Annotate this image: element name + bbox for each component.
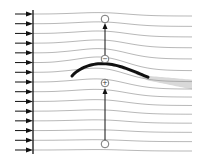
plus-sign-icon: + (102, 79, 108, 87)
inflow-arrowhead (26, 70, 33, 75)
streamline (33, 110, 192, 114)
streamline (33, 130, 192, 133)
lower-target-circle (101, 140, 109, 148)
inflow-arrowhead (26, 109, 33, 114)
inflow-arrowhead (26, 60, 33, 65)
minus-sign-icon: − (102, 55, 108, 63)
airfoil-flow-diagram: Streamlines around a cambered airfoil − … (0, 0, 200, 160)
streamline (33, 140, 192, 142)
inflow-arrowhead (26, 41, 33, 46)
upper-pressure-arrowhead (103, 23, 108, 29)
inflow-arrowhead (26, 128, 33, 133)
inflow-arrowhead (26, 50, 33, 55)
streamline (33, 13, 192, 16)
inflow-arrows (15, 12, 33, 153)
inflow-arrowhead (26, 31, 33, 36)
inflow-arrowhead (26, 80, 33, 85)
streamline (33, 49, 192, 59)
inflow-arrowhead (26, 118, 33, 123)
streamline (33, 40, 192, 48)
inflow-arrowhead (26, 89, 33, 94)
inflow-arrowhead (26, 99, 33, 104)
inflow-arrowhead (26, 21, 33, 26)
lower-pressure-arrowhead (103, 88, 108, 94)
streamline (33, 100, 192, 106)
streamline (33, 150, 192, 151)
upper-target-circle (101, 15, 109, 23)
inflow-arrowhead (26, 148, 33, 153)
inflow-arrowhead (26, 138, 33, 143)
streamline (33, 31, 192, 37)
inflow-arrowhead (26, 12, 33, 17)
streamline (33, 120, 192, 123)
streamline (33, 89, 192, 97)
streamline (33, 22, 192, 26)
